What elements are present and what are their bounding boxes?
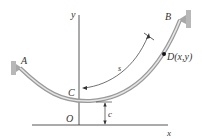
label-y-axis: y [70, 9, 76, 20]
point-d [162, 52, 166, 56]
label-s: s [118, 64, 121, 73]
c-arrow-down [103, 121, 106, 125]
arrowhead-c [82, 86, 87, 90]
c-arrow-up [103, 103, 106, 107]
label-a: A [20, 55, 28, 66]
label-b: B [165, 11, 171, 22]
label-o: O [66, 113, 73, 124]
label-c-point: C [68, 87, 75, 98]
catenary-diagram: y A B D(x,y) s C O c x [0, 0, 202, 139]
label-x-axis: x [166, 128, 171, 138]
label-c-distance: c [108, 109, 112, 119]
label-d: D(x,y) [166, 51, 193, 63]
